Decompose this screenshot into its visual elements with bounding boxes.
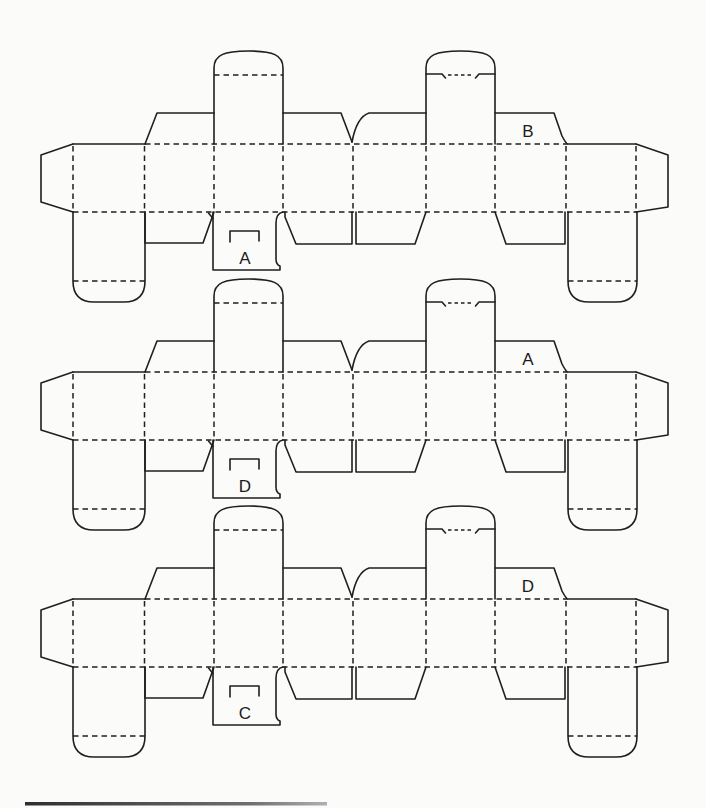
bottom-rule [25,802,327,806]
blank-1-tab-label: A [239,249,251,268]
blank-2-panel-label: A [522,350,534,369]
die-line-figure: B A A D D C [0,0,706,808]
blank-1-panel-label: B [522,122,533,141]
blank-3-panel-label: D [522,577,534,596]
blank-3-tab-label: C [239,704,251,723]
scanned-page: B A A D D C [0,0,706,808]
blank-2-tab-label: D [239,477,251,496]
